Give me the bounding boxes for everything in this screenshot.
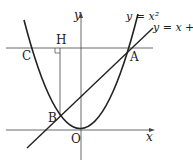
point-b-label: B [48, 111, 57, 125]
x-axis-label: x [146, 130, 153, 144]
origin-label: O [71, 132, 81, 146]
point-c-label: C [22, 49, 31, 63]
point-h-label: H [56, 33, 66, 47]
diagram: y x O A B C H y = x² y = x + t [0, 0, 193, 165]
line-label: y = x + t [152, 21, 193, 34]
right-angle-mark [55, 48, 60, 53]
y-axis-label: y [73, 8, 81, 22]
point-a-label: A [129, 50, 139, 64]
